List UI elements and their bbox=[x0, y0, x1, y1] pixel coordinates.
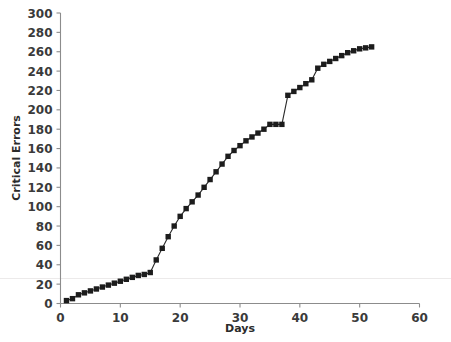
data-point-marker bbox=[106, 282, 111, 287]
x-tick-label: 40 bbox=[291, 311, 308, 325]
data-point-marker bbox=[279, 122, 284, 127]
data-point-marker bbox=[225, 154, 230, 159]
data-point-marker bbox=[142, 272, 147, 277]
data-point-marker bbox=[213, 169, 218, 174]
y-tick-label: 140 bbox=[27, 161, 52, 175]
data-point-marker bbox=[189, 199, 194, 204]
data-point-marker bbox=[255, 130, 260, 135]
data-point-marker bbox=[327, 59, 332, 64]
data-point-marker bbox=[249, 134, 254, 139]
critical-errors-line-chart: 0204060801001201401601802002202402602803… bbox=[0, 0, 451, 342]
data-point-marker bbox=[291, 89, 296, 94]
data-point-marker bbox=[136, 273, 141, 278]
y-tick-label: 300 bbox=[27, 7, 52, 21]
data-point-marker bbox=[357, 46, 362, 51]
y-tick-label: 40 bbox=[36, 258, 53, 272]
data-point-marker bbox=[177, 214, 182, 219]
data-point-marker bbox=[303, 81, 308, 86]
data-point-marker bbox=[112, 280, 117, 285]
x-tick-label: 0 bbox=[56, 311, 64, 325]
data-point-marker bbox=[261, 127, 266, 132]
x-tick-label: 50 bbox=[351, 311, 368, 325]
data-point-marker bbox=[363, 45, 368, 50]
data-point-marker bbox=[297, 85, 302, 90]
chart-figure: 0204060801001201401601802002202402602803… bbox=[0, 0, 451, 342]
data-point-marker bbox=[166, 234, 171, 239]
x-axis-title: Days bbox=[225, 322, 255, 335]
y-tick-label: 180 bbox=[27, 123, 52, 137]
data-point-marker bbox=[333, 56, 338, 61]
chart-background bbox=[0, 0, 451, 342]
y-axis-title: Critical Errors bbox=[10, 115, 23, 201]
data-point-marker bbox=[219, 161, 224, 166]
data-point-marker bbox=[100, 284, 105, 289]
data-point-marker bbox=[160, 246, 165, 251]
data-point-marker bbox=[345, 50, 350, 55]
data-point-marker bbox=[195, 192, 200, 197]
y-tick-label: 80 bbox=[36, 220, 53, 234]
x-tick-label: 10 bbox=[112, 311, 129, 325]
y-tick-label: 60 bbox=[36, 239, 53, 253]
data-point-marker bbox=[171, 223, 176, 228]
data-point-marker bbox=[183, 206, 188, 211]
y-tick-label: 220 bbox=[27, 84, 52, 98]
data-point-marker bbox=[94, 286, 99, 291]
data-point-marker bbox=[273, 122, 278, 127]
y-tick-label: 280 bbox=[27, 26, 52, 40]
data-point-marker bbox=[285, 93, 290, 98]
data-point-marker bbox=[237, 143, 242, 148]
data-point-marker bbox=[201, 185, 206, 190]
data-point-marker bbox=[88, 288, 93, 293]
data-point-marker bbox=[70, 296, 75, 301]
data-point-marker bbox=[76, 292, 81, 297]
y-tick-label: 240 bbox=[27, 65, 52, 79]
data-point-marker bbox=[124, 277, 129, 282]
data-point-marker bbox=[207, 177, 212, 182]
data-point-marker bbox=[369, 44, 374, 49]
x-tick-label: 60 bbox=[411, 311, 428, 325]
y-tick-label: 160 bbox=[27, 142, 52, 156]
data-point-marker bbox=[339, 53, 344, 58]
data-point-marker bbox=[351, 48, 356, 53]
data-point-marker bbox=[231, 148, 236, 153]
data-point-marker bbox=[321, 62, 326, 67]
data-point-marker bbox=[243, 138, 248, 143]
data-point-marker bbox=[267, 122, 272, 127]
x-tick-label: 20 bbox=[172, 311, 189, 325]
data-point-marker bbox=[315, 65, 320, 70]
data-point-marker bbox=[154, 257, 159, 262]
y-tick-label: 0 bbox=[44, 297, 52, 311]
data-point-marker bbox=[148, 270, 153, 275]
data-point-marker bbox=[130, 275, 135, 280]
data-point-marker bbox=[309, 77, 314, 82]
data-point-marker bbox=[64, 298, 69, 303]
y-tick-label: 100 bbox=[27, 200, 52, 214]
y-tick-label: 200 bbox=[27, 103, 52, 117]
data-point-marker bbox=[82, 290, 87, 295]
y-tick-label: 260 bbox=[27, 45, 52, 59]
y-tick-label: 120 bbox=[27, 181, 52, 195]
data-point-marker bbox=[118, 279, 123, 284]
y-tick-label: 20 bbox=[36, 278, 53, 292]
